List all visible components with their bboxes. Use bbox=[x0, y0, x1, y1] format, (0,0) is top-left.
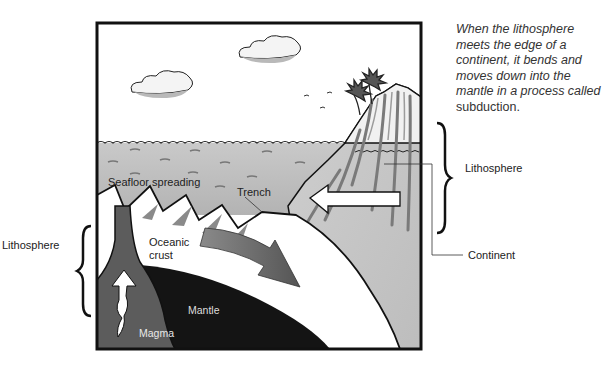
left-brace-icon bbox=[77, 226, 91, 316]
caption-text: When the lithosphere meets the edge of a… bbox=[456, 22, 601, 98]
label-lithosphere-left: Lithosphere bbox=[2, 239, 60, 251]
label-continent: Continent bbox=[468, 249, 515, 261]
label-seafloor-spreading: Seafloor spreading bbox=[108, 176, 200, 188]
label-oceanic-crust-2: crust bbox=[149, 249, 173, 261]
caption-term: subduction. bbox=[456, 100, 520, 114]
right-brace-icon bbox=[437, 123, 451, 233]
caption: When the lithosphere meets the edge of a… bbox=[456, 22, 603, 115]
label-mantle: Mantle bbox=[188, 304, 220, 316]
label-trench: Trench bbox=[237, 186, 271, 198]
label-oceanic-crust-1: Oceanic bbox=[149, 236, 189, 248]
label-magma: Magma bbox=[139, 327, 174, 339]
label-lithosphere-right: Lithosphere bbox=[465, 162, 523, 174]
